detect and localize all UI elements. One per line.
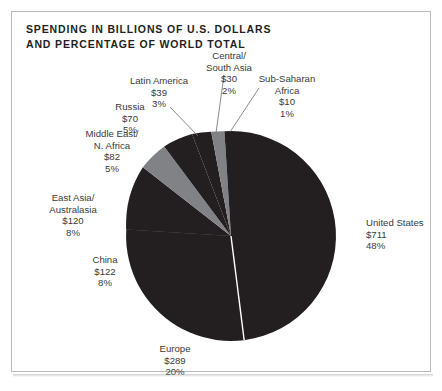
label-china: China $122 8% (72, 254, 138, 289)
label-latin-america: Latin America $39 3% (117, 75, 201, 110)
figure-shadow (13, 374, 433, 377)
label-sub-saharan-africa: Sub-Saharan Africa $10 1% (248, 73, 326, 119)
label-united-states: United States $711 48% (366, 217, 442, 252)
label-east-asia-australasia: East Asia/ Australasia $120 8% (28, 192, 118, 238)
leader-line-latin-america (170, 107, 198, 136)
pie-slice-united-states[interactable] (231, 131, 336, 340)
chart-figure-frame: SPENDING IN BILLIONS OF U.S. DOLLARSAND … (11, 11, 431, 372)
label-europe: Europe $289 20% (140, 343, 210, 378)
